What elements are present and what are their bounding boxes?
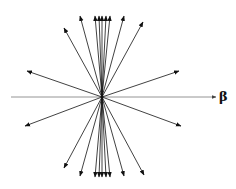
arrow (99, 97, 102, 177)
arrow (99, 16, 102, 97)
arrow (64, 28, 102, 97)
arrow (25, 97, 102, 126)
beta-axis-label: β (219, 89, 228, 104)
arrow-bundle (25, 16, 181, 177)
arrow (27, 71, 102, 97)
arrow (102, 97, 181, 126)
arrow (64, 97, 102, 168)
arrow-diagram (0, 0, 236, 189)
arrow (102, 71, 179, 97)
diagram-canvas: β (0, 0, 236, 189)
